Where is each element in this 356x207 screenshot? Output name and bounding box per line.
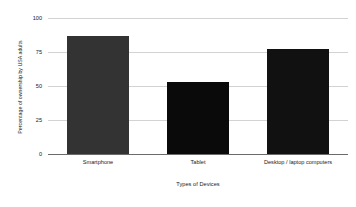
bar[interactable] [67, 36, 129, 154]
x-axis-category-label: Smartphone [48, 159, 148, 166]
x-axis-title: Types of Devices [48, 180, 348, 188]
y-axis-tick-label: 100 [12, 15, 42, 21]
x-axis-category-label: Desktop / laptop computers [248, 159, 348, 166]
y-axis-tick: 75 [12, 49, 42, 55]
bar[interactable] [267, 49, 329, 154]
y-axis-tick: 100 [12, 15, 42, 21]
y-axis-tick: 50 [12, 83, 42, 89]
bar-chart: Percentage of ownership by USA adults 02… [0, 0, 356, 207]
bars-layer [48, 18, 348, 154]
plot-area: 0255075100 [48, 18, 348, 154]
y-axis-tick-label: 75 [12, 49, 42, 55]
y-axis-tick: 25 [12, 117, 42, 123]
x-axis-category-label: Tablet [148, 159, 248, 166]
axis-baseline [48, 154, 348, 155]
y-axis-tick: 0 [12, 151, 42, 157]
y-axis-tick-label: 50 [12, 83, 42, 89]
bar[interactable] [167, 82, 229, 154]
y-axis-tick-label: 25 [12, 117, 42, 123]
y-axis-tick-label: 0 [12, 151, 42, 157]
